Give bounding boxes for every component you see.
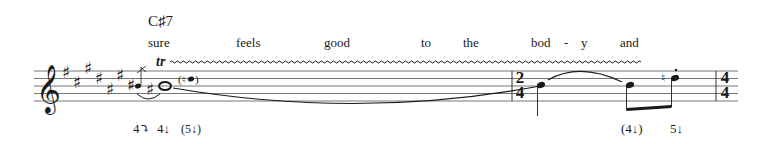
lyric-syllable: sure: [148, 36, 170, 49]
svg-text:♯: ♯: [106, 79, 114, 99]
svg-text:♯: ♯: [62, 62, 70, 82]
svg-text:♯: ♯: [73, 72, 81, 92]
time-signature-4-4: 4 4: [719, 70, 731, 100]
sharp-accidental: ♯: [146, 79, 154, 99]
natural-accidental: ♮: [661, 71, 665, 85]
fingering: 5↓: [670, 122, 683, 135]
chord-symbol: C♯7: [148, 14, 173, 29]
fingering: (5↓): [181, 123, 201, 136]
lyric-hyphen: -: [564, 36, 568, 49]
lyric-syllable: to: [421, 36, 431, 49]
svg-text:♮: ♮: [128, 78, 132, 92]
fingering: 4⤵: [133, 122, 150, 135]
lyric-syllable: and: [620, 36, 639, 49]
lyric-syllable: the: [463, 36, 479, 49]
treble-clef-icon: 𝄞: [36, 64, 61, 115]
svg-text:♯: ♯: [116, 65, 124, 85]
lyric-syllable: bod: [531, 36, 551, 49]
svg-text:): ): [195, 73, 199, 86]
svg-text:𝄞: 𝄞: [36, 64, 61, 115]
time-signature-bottom: 4: [719, 85, 731, 100]
svg-text:♮: ♮: [182, 74, 186, 85]
lyric-syllable: y: [581, 36, 588, 49]
lyric-syllable: good: [324, 36, 350, 49]
trill-auxiliary-note: ( ♮ ): [178, 73, 199, 86]
trill-label: tr: [156, 55, 165, 68]
slur: [548, 71, 622, 82]
staff-graphics: 𝄞 ♯ ♯ ♯ ♯ ♯ ♯ ♯ ♮ ♯ ( ♮ ): [0, 0, 758, 144]
svg-text:♯: ♯: [95, 68, 103, 88]
trill-wavy-line: [170, 61, 641, 63]
svg-text:♯: ♯: [84, 58, 92, 78]
lyric-syllable: feels: [236, 36, 261, 49]
music-score: 𝄞 ♯ ♯ ♯ ♯ ♯ ♯ ♯ ♮ ♯ ( ♮ ): [0, 0, 758, 144]
fingering: 4↓: [157, 122, 170, 135]
grace-note: ♮: [128, 66, 146, 92]
fingering: (4↓): [621, 122, 643, 135]
time-signature-bottom: 4: [514, 85, 526, 100]
time-signature-2-4: 2 4: [514, 70, 526, 100]
staccato-dot: [675, 69, 677, 71]
beam: [627, 105, 672, 111]
